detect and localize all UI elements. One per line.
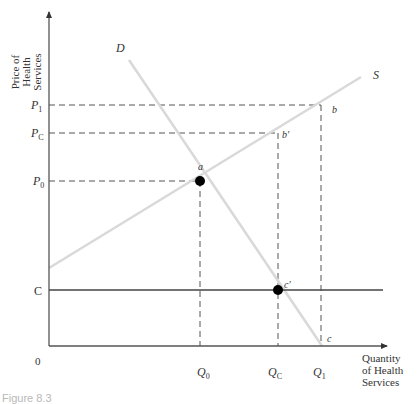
point-a-label: a — [198, 161, 203, 172]
y-tick-p0: P0 — [32, 174, 44, 190]
point-b-prime-label: b′ — [282, 129, 290, 140]
x-axis-title-line-2: of Health — [362, 364, 404, 376]
y-axis-title: Price of Health Services — [9, 53, 43, 90]
point-c-prime-marker — [273, 285, 283, 295]
x-tick-qc: QC — [268, 365, 282, 381]
point-a-marker — [195, 176, 205, 186]
x-axis-title: Quantity of Health Services — [362, 352, 404, 388]
y-tick-p1: P1 — [30, 98, 42, 114]
x-axis-title-line-1: Quantity — [362, 352, 401, 364]
figure-caption: Figure 8.3 — [2, 392, 52, 404]
x-tick-q1: Q1 — [313, 365, 326, 381]
y-tick-c: C — [34, 284, 42, 298]
point-c-label: c — [327, 333, 332, 344]
y-tick-pc: PC — [30, 126, 44, 142]
x-tick-q0: Q0 — [197, 365, 210, 381]
demand-label: D — [115, 41, 125, 55]
point-c-prime-label: c′ — [284, 279, 291, 290]
point-b-label: b — [332, 104, 337, 115]
origin-label: 0 — [35, 355, 41, 367]
supply-label: S — [373, 68, 379, 82]
y-axis-title-line-3: Services — [31, 53, 43, 90]
demand-curve — [129, 60, 322, 346]
x-axis-title-line-3: Services — [362, 376, 399, 388]
